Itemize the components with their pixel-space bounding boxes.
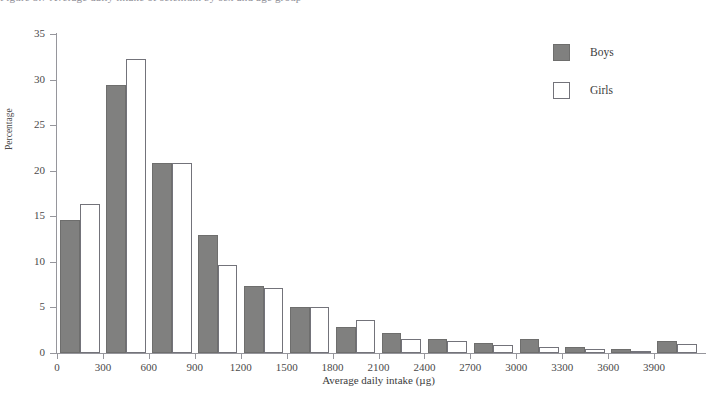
bar-boys-2400-2700 (428, 339, 448, 353)
x-tick-label: 2100 (357, 361, 401, 373)
x-tick (608, 354, 609, 359)
legend-swatch-boys-icon (553, 44, 570, 61)
x-tick-label: 300 (81, 361, 125, 373)
y-tick-label: 0 (0, 347, 45, 358)
bar-girls-300-600 (126, 59, 146, 353)
x-tick (241, 354, 242, 359)
chart-legend: Boys Girls (553, 44, 693, 120)
bar-girls-3300-3600 (585, 349, 605, 353)
x-tick-label: 1200 (219, 361, 263, 373)
x-tick (57, 354, 58, 359)
x-tick (195, 354, 196, 359)
legend-item-girls: Girls (553, 82, 693, 120)
y-tick-label: 25 (0, 119, 45, 130)
bar-boys-2100-2400 (382, 333, 402, 353)
bar-girls-2400-2700 (447, 341, 467, 353)
x-tick-label: 3600 (586, 361, 630, 373)
bar-boys-3000-3300 (520, 339, 540, 353)
legend-item-boys: Boys (553, 44, 693, 82)
x-tick (149, 354, 150, 359)
x-tick (516, 354, 517, 359)
x-tick (333, 354, 334, 359)
x-tick-label: 2700 (448, 361, 492, 373)
legend-swatch-girls-icon (553, 82, 570, 99)
bar-boys-600-900 (152, 163, 172, 353)
x-tick (379, 354, 380, 359)
y-tick-label: 5 (0, 301, 45, 312)
bar-girls-600-900 (172, 163, 192, 353)
bar-boys-900-1200 (198, 235, 218, 353)
bar-girls-0-300 (80, 204, 100, 353)
bar-boys-1500-1800 (290, 307, 310, 353)
bar-girls-3600-3900 (631, 351, 651, 353)
y-tick (50, 171, 56, 172)
x-tick (562, 354, 563, 359)
bar-boys-3600-3900 (611, 349, 631, 353)
x-tick (470, 354, 471, 359)
y-tick (50, 262, 56, 263)
bar-boys-3300-3600 (565, 347, 585, 353)
x-tick-label: 3300 (540, 361, 584, 373)
bar-girls-1500-1800 (310, 307, 330, 353)
y-tick-label: 10 (0, 256, 45, 267)
bar-boys-3900-4200 (657, 341, 677, 353)
x-tick (654, 354, 655, 359)
x-axis-title: Average daily intake (µg) (57, 374, 700, 386)
y-tick (50, 353, 56, 354)
bar-girls-3900-4200 (677, 344, 697, 353)
bar-boys-1800-2100 (336, 327, 356, 353)
y-tick-label: 30 (0, 74, 45, 85)
x-tick (424, 354, 425, 359)
y-tick (50, 125, 56, 126)
bar-boys-1200-1500 (244, 286, 264, 353)
x-tick-label: 1500 (265, 361, 309, 373)
x-tick (103, 354, 104, 359)
x-tick-label: 3900 (632, 361, 676, 373)
y-tick (50, 34, 56, 35)
y-tick-label: 15 (0, 210, 45, 221)
y-tick-label: 35 (0, 28, 45, 39)
bar-boys-300-600 (106, 85, 126, 353)
bar-girls-2700-3000 (493, 345, 513, 353)
x-tick-label: 0 (35, 361, 79, 373)
bar-girls-3000-3300 (539, 347, 559, 353)
x-tick (287, 354, 288, 359)
bar-girls-2100-2400 (401, 339, 421, 353)
legend-label-girls: Girls (590, 84, 613, 97)
x-tick-label: 900 (173, 361, 217, 373)
x-tick-label: 3000 (494, 361, 538, 373)
y-tick (50, 307, 56, 308)
x-tick-label: 600 (127, 361, 171, 373)
y-tick-label: 20 (0, 165, 45, 176)
bar-boys-2700-3000 (474, 343, 494, 353)
legend-label-boys: Boys (590, 46, 614, 59)
bar-girls-1800-2100 (356, 320, 376, 353)
y-tick (50, 216, 56, 217)
x-tick-label: 1800 (311, 361, 355, 373)
grouped-bar-chart: Percentage Average daily intake (µg) 051… (0, 0, 710, 405)
bar-girls-900-1200 (218, 265, 238, 353)
x-tick-label: 2400 (402, 361, 446, 373)
bar-girls-1200-1500 (264, 288, 284, 353)
bar-boys-0-300 (60, 220, 80, 353)
y-tick (50, 80, 56, 81)
